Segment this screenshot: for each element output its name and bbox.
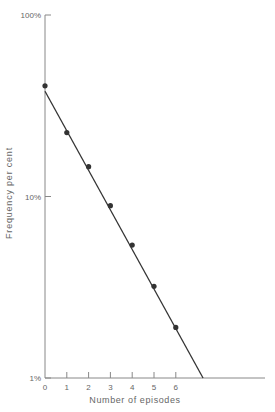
y-tick-label: 1% <box>29 374 41 383</box>
data-point <box>173 325 178 330</box>
data-point <box>42 83 47 88</box>
data-point <box>108 203 113 208</box>
axes <box>45 15 265 378</box>
y-tick-label: 100% <box>21 11 41 20</box>
chart: 100%10%1%0123456 Number of episodes Freq… <box>0 0 275 412</box>
x-tick-label: 3 <box>108 383 113 392</box>
x-tick-label: 1 <box>65 383 70 392</box>
y-tick-label: 10% <box>25 193 41 202</box>
ticks: 100%10%1%0123456 <box>21 11 179 392</box>
x-tick-label: 0 <box>43 383 48 392</box>
data-point <box>86 164 91 169</box>
y-axis-label: Frequency per cent <box>4 147 14 239</box>
x-tick-label: 2 <box>86 383 91 392</box>
x-tick-label: 5 <box>152 383 157 392</box>
x-axis-label: Number of episodes <box>89 395 180 405</box>
data-point <box>130 242 135 247</box>
data-points <box>42 83 178 330</box>
data-point <box>64 130 69 135</box>
x-tick-label: 6 <box>174 383 179 392</box>
data-point <box>151 284 156 289</box>
x-tick-label: 4 <box>130 383 135 392</box>
